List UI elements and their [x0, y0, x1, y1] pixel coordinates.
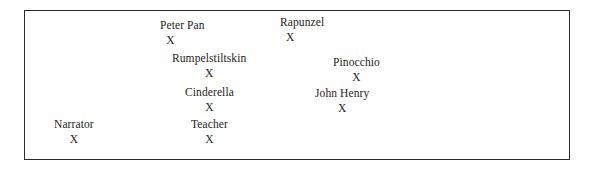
character-name-label: Peter Pan — [160, 20, 205, 32]
position-marker-x-icon: X — [315, 103, 369, 115]
position-marker-x-icon: X — [54, 134, 94, 146]
character-entry-cinderella: CinderellaX — [185, 87, 234, 114]
position-marker-x-icon: X — [191, 134, 228, 146]
position-marker-x-icon: X — [185, 102, 234, 114]
position-marker-x-icon: X — [172, 68, 246, 80]
character-entry-narrator: NarratorX — [54, 119, 94, 146]
character-entry-rapunzel: RapunzelX — [280, 17, 324, 44]
character-name-label: Teacher — [191, 119, 228, 131]
character-name-label: Narrator — [54, 119, 94, 131]
character-entry-rumpelstiltskin: RumpelstiltskinX — [172, 53, 246, 80]
character-name-label: Pinocchio — [333, 57, 380, 69]
diagram-canvas: Peter PanXRapunzelXRumpelstiltskinXPinoc… — [0, 0, 593, 170]
position-marker-x-icon: X — [333, 72, 380, 84]
character-entry-teacher: TeacherX — [191, 119, 228, 146]
character-entry-peter-pan: Peter PanX — [160, 20, 205, 47]
position-marker-x-icon: X — [148, 35, 193, 47]
character-name-label: Rumpelstiltskin — [172, 53, 246, 65]
character-name-label: John Henry — [315, 88, 369, 100]
character-entry-john-henry: John HenryX — [315, 88, 369, 115]
position-marker-x-icon: X — [268, 32, 312, 44]
character-name-label: Rapunzel — [280, 17, 324, 29]
character-entry-pinocchio: PinocchioX — [333, 57, 380, 84]
character-name-label: Cinderella — [185, 87, 234, 99]
